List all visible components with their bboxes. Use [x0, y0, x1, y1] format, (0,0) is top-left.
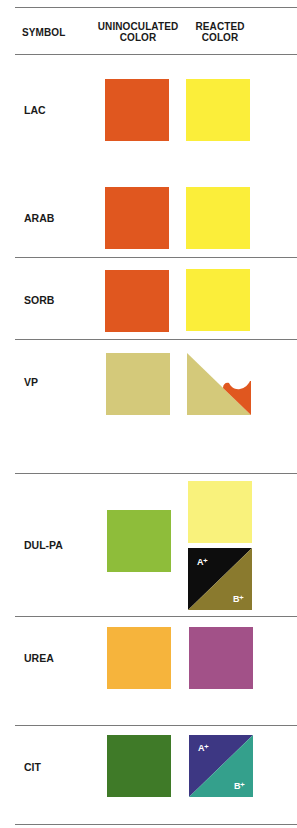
vp-uninoculated-swatch	[106, 353, 170, 415]
cit-reacted-swatch: A⁺ B⁺	[189, 735, 253, 797]
vp-reacted-graphic	[187, 353, 251, 415]
lac-reacted-swatch	[186, 79, 250, 141]
label-b-plus: B⁺	[234, 781, 246, 791]
header-uninoculated-line1: UNINOCULATED	[90, 21, 186, 32]
cit-uninoculated-swatch	[107, 735, 171, 797]
symbol-sorb: SORB	[24, 294, 54, 306]
symbol-urea: UREA	[24, 652, 54, 664]
header-reacted-line1: REACTED	[188, 21, 252, 32]
dulpa-reacted-swatch-1	[188, 481, 252, 543]
arab-uninoculated-swatch	[105, 187, 169, 249]
dulpa-uninoculated-swatch	[107, 510, 171, 572]
row-rule-sorb	[15, 339, 297, 340]
cit-split-graphic: A⁺ B⁺	[189, 735, 253, 797]
sorb-uninoculated-swatch	[105, 270, 169, 332]
lac-uninoculated-swatch	[105, 79, 169, 141]
header-symbol: SYMBOL	[22, 27, 65, 38]
arab-reacted-swatch	[186, 187, 250, 249]
label-a-plus: A⁺	[197, 557, 209, 567]
top-rule	[15, 7, 297, 8]
symbol-lac: LAC	[24, 104, 46, 116]
urea-uninoculated-swatch	[107, 627, 171, 689]
symbol-arab: ARAB	[24, 212, 54, 224]
header-uninoculated-line2: COLOR	[90, 32, 186, 43]
label-b-plus: B⁺	[233, 594, 245, 604]
row-rule-cit	[15, 824, 297, 825]
header-reacted-line2: COLOR	[188, 32, 252, 43]
sorb-reacted-swatch	[186, 269, 250, 331]
label-a-plus: A⁺	[198, 743, 210, 753]
header-uninoculated: UNINOCULATED COLOR	[90, 21, 186, 43]
row-rule-vp	[15, 473, 297, 474]
row-rule-dulpa	[15, 616, 297, 617]
symbol-vp: VP	[24, 376, 38, 388]
dulpa-split-graphic: A⁺ B⁺	[188, 548, 252, 610]
header-rule	[15, 54, 297, 55]
header-reacted: REACTED COLOR	[188, 21, 252, 43]
dulpa-reacted-swatch-2: A⁺ B⁺	[188, 548, 252, 610]
row-rule-urea	[15, 725, 297, 726]
urea-reacted-swatch	[189, 627, 253, 689]
symbol-dul-pa: DUL-PA	[24, 539, 63, 551]
row-rule-arab	[15, 257, 297, 258]
vp-reacted-swatch	[187, 353, 251, 415]
symbol-cit: CIT	[24, 761, 41, 773]
